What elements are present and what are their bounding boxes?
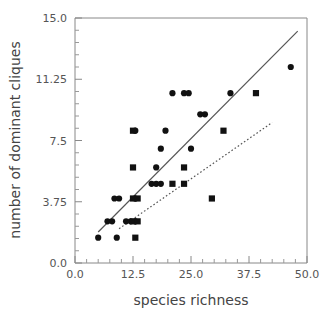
data-point-circle (158, 146, 164, 152)
data-point-circle (109, 218, 115, 224)
data-point-square (181, 164, 187, 170)
x-tick-label: 0.0 (66, 268, 84, 281)
data-point-circle (114, 235, 120, 241)
plot-canvas: 0.012.525.037.550.00.03.757.511.2515.0 s… (0, 0, 331, 315)
x-tick-label: 25.0 (179, 268, 204, 281)
data-point-square (132, 235, 138, 241)
y-tick-label: 15.0 (43, 12, 68, 25)
data-point-square (130, 128, 136, 134)
data-point-square (181, 181, 187, 187)
x-tick-label: 12.5 (121, 268, 146, 281)
data-point-circle (153, 164, 159, 170)
y-tick-label: 0.0 (50, 257, 68, 270)
y-tick-label: 7.5 (50, 135, 68, 148)
y-tick-label: 11.25 (36, 73, 68, 86)
data-point-circle (162, 128, 168, 134)
data-point-circle (95, 235, 101, 241)
x-tick-label: 37.5 (237, 268, 262, 281)
x-tick-label: 50.0 (295, 268, 320, 281)
data-point-circle (202, 111, 208, 117)
data-point-circle (186, 90, 192, 96)
data-point-square (169, 181, 175, 187)
data-point-square (220, 128, 226, 134)
data-point-square (209, 195, 215, 201)
data-point-circle (158, 181, 164, 187)
y-axis-title: number of dominant cliques (7, 41, 23, 238)
data-point-square (253, 90, 259, 96)
scatter-plot-figure: 0.012.525.037.550.00.03.757.511.2515.0 s… (0, 0, 331, 315)
data-point-square (130, 164, 136, 170)
data-point-circle (116, 195, 122, 201)
data-point-square (135, 195, 141, 201)
data-point-square (135, 218, 141, 224)
data-point-circle (188, 146, 194, 152)
data-point-circle (169, 90, 175, 96)
x-axis-title: species richness (133, 292, 248, 308)
data-point-circle (288, 64, 294, 70)
data-point-circle (227, 90, 233, 96)
y-tick-label: 3.75 (43, 196, 68, 209)
